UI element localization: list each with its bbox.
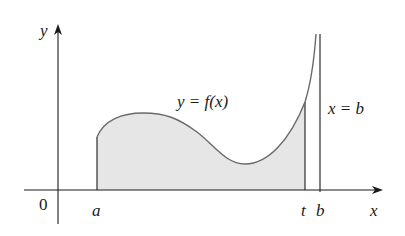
shaded-area <box>97 102 305 190</box>
x-axis-label: x <box>369 201 378 220</box>
a-label: a <box>92 201 101 220</box>
b-label: b <box>316 201 325 220</box>
t-label: t <box>301 201 307 220</box>
y-axis-label: y <box>38 21 48 40</box>
asymptote-label: x = b <box>327 99 364 118</box>
diagram-canvas: y x 0 a t b y = f(x) x = b <box>0 0 405 236</box>
origin-label: 0 <box>39 195 48 214</box>
curve-label: y = f(x) <box>175 92 228 111</box>
diagram: y x 0 a t b y = f(x) x = b <box>0 0 405 236</box>
